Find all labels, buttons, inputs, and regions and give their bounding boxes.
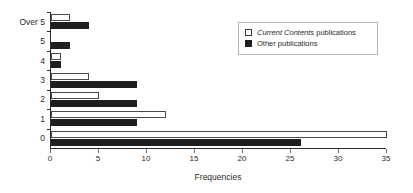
y-tick-5 — [47, 31, 51, 32]
filled-square-swatch-icon — [245, 40, 252, 47]
x-tick-35 — [386, 149, 387, 153]
legend-label-plain: publications — [314, 28, 356, 37]
legend-label-italic: Current Contents — [257, 28, 314, 37]
y-axis-label-4: 4 — [40, 56, 45, 66]
y-tick-over-5 — [47, 12, 51, 13]
x-tick-label-10: 10 — [142, 154, 151, 163]
x-tick-label-5: 5 — [96, 154, 100, 163]
bar-chart: 05101520253035 012345Over 5 Frequencies … — [0, 0, 413, 193]
legend-label-current-contents: Current Contents publications — [257, 28, 356, 37]
open-square-swatch-icon — [245, 29, 252, 36]
y-tick-2 — [47, 90, 51, 91]
bar-current-contents-1 — [51, 111, 166, 118]
bar-other-1 — [51, 119, 137, 126]
x-tick-25 — [290, 149, 291, 153]
x-tick-label-35: 35 — [382, 154, 391, 163]
x-tick-15 — [194, 149, 195, 153]
x-tick-10 — [146, 149, 147, 153]
legend-item-other: Other publications — [245, 38, 371, 49]
x-tick-20 — [242, 149, 243, 153]
bar-other-over-5 — [51, 22, 89, 29]
x-axis-line — [50, 148, 386, 149]
y-axis-label-5: 5 — [40, 36, 45, 46]
bar-current-contents-4 — [51, 53, 61, 60]
y-axis-label-0: 0 — [40, 133, 45, 143]
y-tick-0 — [47, 129, 51, 130]
bar-other-4 — [51, 61, 61, 68]
chart-legend: Current Contents publications Other publ… — [238, 22, 378, 55]
legend-label-other: Other publications — [257, 39, 317, 48]
bar-other-2 — [51, 100, 137, 107]
bar-current-contents-0 — [51, 131, 387, 138]
y-tick-3 — [47, 70, 51, 71]
y-axis-label-3: 3 — [40, 75, 45, 85]
y-axis-label-1: 1 — [40, 114, 45, 124]
x-tick-label-15: 15 — [190, 154, 199, 163]
bar-current-contents-3 — [51, 73, 89, 80]
x-tick-30 — [338, 149, 339, 153]
x-tick-5 — [98, 149, 99, 153]
x-tick-label-30: 30 — [334, 154, 343, 163]
x-tick-label-0: 0 — [48, 154, 52, 163]
bar-current-contents-over-5 — [51, 14, 70, 21]
x-tick-label-25: 25 — [286, 154, 295, 163]
x-axis-title: Frequencies — [50, 172, 386, 182]
x-tick-0 — [50, 149, 51, 153]
y-axis-label-over-5: Over 5 — [19, 17, 45, 27]
legend-item-current-contents: Current Contents publications — [245, 27, 371, 38]
y-axis-label-2: 2 — [40, 94, 45, 104]
y-tick-4 — [47, 51, 51, 52]
y-tick-1 — [47, 109, 51, 110]
bar-current-contents-2 — [51, 92, 99, 99]
bar-other-0 — [51, 139, 301, 146]
bar-other-3 — [51, 81, 137, 88]
x-tick-label-20: 20 — [238, 154, 247, 163]
bar-other-5 — [51, 42, 70, 49]
